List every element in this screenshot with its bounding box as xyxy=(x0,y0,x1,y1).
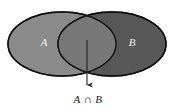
set-b-label: B xyxy=(129,36,136,48)
venn-diagram-svg: A B A ∩ B xyxy=(0,0,177,109)
intersection-caption: A ∩ B xyxy=(72,93,102,105)
set-a-label: A xyxy=(40,36,48,48)
venn-diagram-figure: A B A ∩ B xyxy=(0,0,177,109)
